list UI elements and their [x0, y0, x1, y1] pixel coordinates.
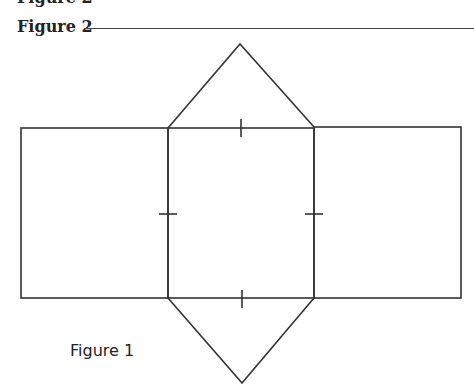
bottom-triangle: [168, 298, 314, 383]
center-square: [168, 128, 314, 298]
figure-caption: Figure 1: [70, 341, 134, 360]
left-rectangle: [21, 128, 168, 298]
right-rectangle: [314, 127, 461, 298]
top-triangle: [168, 44, 314, 128]
prism-net-diagram: [0, 0, 474, 389]
